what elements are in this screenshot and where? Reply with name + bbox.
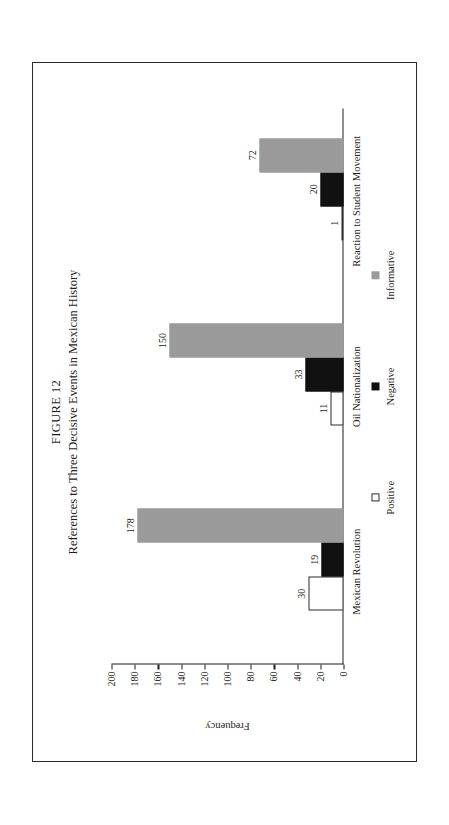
y-axis-tick bbox=[274, 665, 275, 670]
bar-value-label: 1 bbox=[329, 221, 340, 226]
bar-group: 12072Reaction to Student Movement bbox=[112, 109, 344, 294]
legend-label: Informative bbox=[385, 251, 396, 301]
y-axis-tick-label: 140 bbox=[176, 672, 187, 687]
y-axis-tick bbox=[135, 665, 136, 670]
legend-item: Informative bbox=[372, 251, 396, 301]
y-axis-tick bbox=[297, 665, 298, 670]
figure-number: FIGURE 12 bbox=[48, 64, 65, 761]
y-axis-tick bbox=[112, 665, 113, 670]
bar-group: 3019178Mexican Revolution bbox=[112, 479, 344, 664]
y-axis-tick bbox=[344, 665, 345, 670]
plot-area: Frequency 200180160140120100806040200 30… bbox=[112, 109, 344, 665]
y-axis-tick bbox=[181, 665, 182, 670]
y-axis-tick-label: 0 bbox=[338, 672, 349, 677]
bar-group: 1133150Oil Nationalization bbox=[112, 294, 344, 479]
y-axis-tick bbox=[204, 665, 205, 670]
legend-item: Negative bbox=[372, 368, 396, 406]
y-axis-tick bbox=[320, 665, 321, 670]
chart-legend: PositiveNegativeInformative bbox=[372, 109, 402, 665]
bar-value-label: 19 bbox=[308, 555, 319, 565]
y-axis-tick-label: 100 bbox=[222, 672, 233, 687]
y-axis-tick-label: 180 bbox=[129, 672, 140, 687]
category-label: Mexican Revolution bbox=[351, 529, 362, 615]
bar-value-label: 72 bbox=[247, 150, 258, 160]
category-label: Oil Nationalization bbox=[351, 346, 362, 427]
bar-value-label: 30 bbox=[296, 589, 307, 599]
legend-label: Negative bbox=[385, 368, 396, 406]
y-axis-tick-label: 160 bbox=[152, 672, 163, 687]
bar-positive: 1 bbox=[342, 206, 344, 240]
y-axis-tick-label: 40 bbox=[292, 672, 303, 682]
bar-negative: 20 bbox=[320, 172, 343, 206]
y-axis-tick-label: 60 bbox=[268, 672, 279, 682]
legend-swatch-positive-icon bbox=[372, 494, 380, 502]
bar-value-label: 150 bbox=[157, 333, 168, 348]
bar-value-label: 178 bbox=[124, 518, 135, 533]
y-axis-tick-label: 80 bbox=[245, 672, 256, 682]
figure-frame: FIGURE 12 References to Three Decisive E… bbox=[32, 62, 417, 762]
figure-title: References to Three Decisive Events in M… bbox=[64, 64, 81, 761]
y-axis-tick-label: 200 bbox=[106, 672, 117, 687]
bar-positive: 11 bbox=[331, 392, 344, 426]
bar-value-label: 20 bbox=[307, 184, 318, 194]
rotated-figure-content: FIGURE 12 References to Three Decisive E… bbox=[34, 64, 416, 761]
y-axis-tick-label: 120 bbox=[199, 672, 210, 687]
legend-swatch-negative-icon bbox=[372, 383, 380, 391]
figure-heading: FIGURE 12 References to Three Decisive E… bbox=[48, 64, 82, 761]
legend-swatch-informative-icon bbox=[372, 271, 380, 279]
y-axis-tick bbox=[251, 665, 252, 670]
category-label: Reaction to Student Movement bbox=[351, 136, 362, 267]
bar-informative: 150 bbox=[170, 324, 344, 358]
bar-positive: 30 bbox=[309, 577, 344, 611]
y-axis-tick bbox=[228, 665, 229, 670]
y-axis-label: Frequency bbox=[205, 721, 249, 732]
bar-negative: 19 bbox=[321, 543, 343, 577]
legend-label: Positive bbox=[385, 481, 396, 515]
legend-item: Positive bbox=[372, 481, 396, 515]
bar-informative: 178 bbox=[137, 509, 343, 543]
y-axis-tick bbox=[158, 665, 159, 670]
bar-value-label: 11 bbox=[318, 404, 329, 414]
y-axis-tick-label: 20 bbox=[315, 672, 326, 682]
bar-negative: 33 bbox=[305, 358, 343, 392]
bar-value-label: 33 bbox=[292, 370, 303, 380]
figure-page: FIGURE 12 References to Three Decisive E… bbox=[0, 0, 449, 825]
bar-informative: 72 bbox=[260, 138, 344, 172]
